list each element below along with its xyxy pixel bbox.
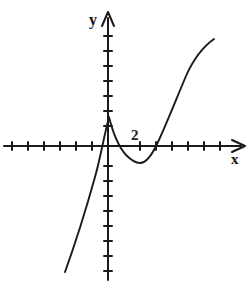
- x-tick-label-2: 2: [131, 128, 139, 143]
- y-axis-label: y: [89, 12, 97, 28]
- function-curve: [65, 39, 214, 272]
- cartesian-plot: [0, 0, 251, 282]
- graph-figure: y x 2: [0, 0, 251, 282]
- x-axis-group: [4, 140, 245, 152]
- x-axis-label: x: [231, 152, 239, 167]
